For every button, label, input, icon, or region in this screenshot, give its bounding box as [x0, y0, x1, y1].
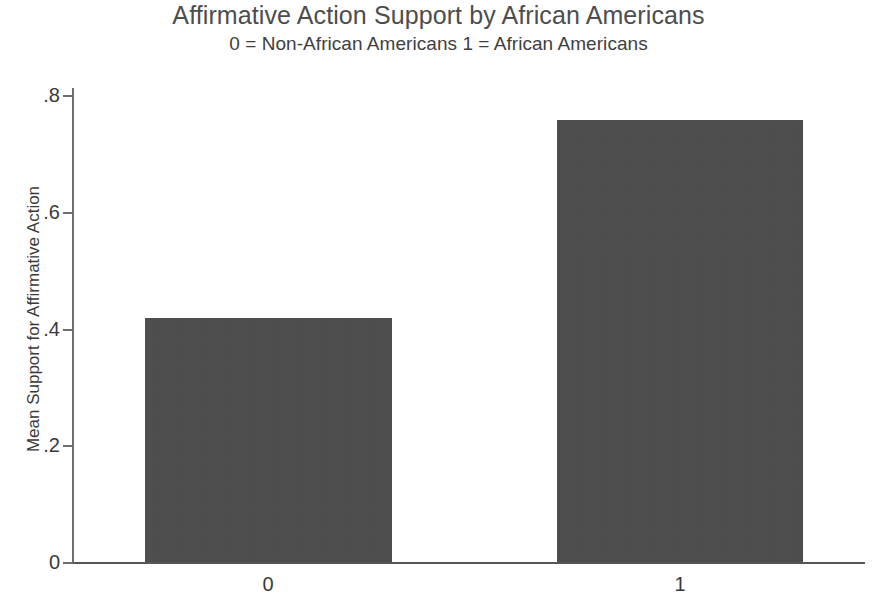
chart-title-block: Affirmative Action Support by African Am… — [0, 0, 877, 57]
chart-subtitle: 0 = Non-African Americans 1 = African Am… — [0, 31, 877, 57]
page-title: Affirmative Action Support by African Am… — [0, 0, 877, 31]
bar-category-0 — [145, 318, 392, 562]
y-axis-line — [72, 88, 74, 564]
y-axis-tick-mark — [63, 95, 73, 97]
bar-chart: Affirmative Action Support by African Am… — [0, 0, 877, 600]
y-axis-tick-mark — [63, 329, 73, 331]
x-axis-tick-label: 0 — [208, 572, 328, 596]
y-axis-tick-label: 0 — [0, 552, 60, 572]
y-axis-tick-mark — [63, 562, 73, 564]
y-axis-tick-label: .2 — [0, 435, 60, 455]
x-axis-line — [72, 562, 865, 564]
y-axis-tick-mark — [63, 445, 73, 447]
y-axis-tick-mark — [63, 212, 73, 214]
bar-category-1 — [557, 120, 803, 562]
y-axis-tick-label: .6 — [0, 202, 60, 222]
y-axis-tick-label: .8 — [0, 85, 60, 105]
y-axis-tick-label: .4 — [0, 319, 60, 339]
x-axis-tick-label: 1 — [620, 572, 740, 596]
